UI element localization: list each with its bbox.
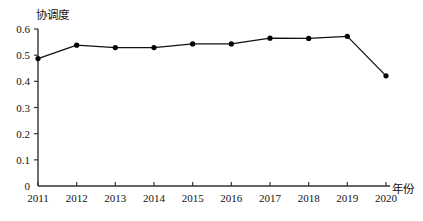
x-axis-tick-label: 2012 xyxy=(66,192,88,204)
x-axis-tick-label: 2011 xyxy=(27,192,49,204)
data-point-marker xyxy=(306,36,311,41)
coordination-degree-line-chart: 协调度 年份 00.10.20.30.40.50.6 2011201220132… xyxy=(0,0,423,221)
axes xyxy=(38,29,390,186)
y-axis-tick-label: 0.1 xyxy=(0,154,30,166)
data-point-marker xyxy=(229,41,234,46)
y-axis-tick-label: 0.4 xyxy=(0,75,30,87)
y-axis-tick-label: 0 xyxy=(0,180,30,192)
data-point-marker xyxy=(190,41,195,46)
y-axis-tick-label: 0.3 xyxy=(0,102,30,114)
x-axis-tick-label: 2016 xyxy=(220,192,242,204)
data-point-marker xyxy=(113,45,118,50)
data-point-marker xyxy=(35,56,40,61)
x-axis-tick-label: 2017 xyxy=(259,192,281,204)
x-axis-tick-label: 2018 xyxy=(298,192,320,204)
y-axis-tick-label: 0.6 xyxy=(0,23,30,35)
x-axis-tick-label: 2019 xyxy=(336,192,358,204)
data-point-marker xyxy=(383,73,388,78)
y-axis-tick-label: 0.2 xyxy=(0,128,30,140)
x-axis-tick-label: 2013 xyxy=(104,192,126,204)
x-axis-tick-label: 2015 xyxy=(182,192,204,204)
x-axis-tick-label: 2014 xyxy=(143,192,165,204)
data-point-markers xyxy=(35,34,388,79)
x-axis-tick-label: 2020 xyxy=(375,192,397,204)
data-point-marker xyxy=(74,43,79,48)
data-point-marker xyxy=(345,34,350,39)
y-axis-tick-label: 0.5 xyxy=(0,49,30,61)
data-point-marker xyxy=(267,36,272,41)
data-series-line xyxy=(38,36,386,76)
data-point-marker xyxy=(151,45,156,50)
plot-area xyxy=(0,0,423,221)
